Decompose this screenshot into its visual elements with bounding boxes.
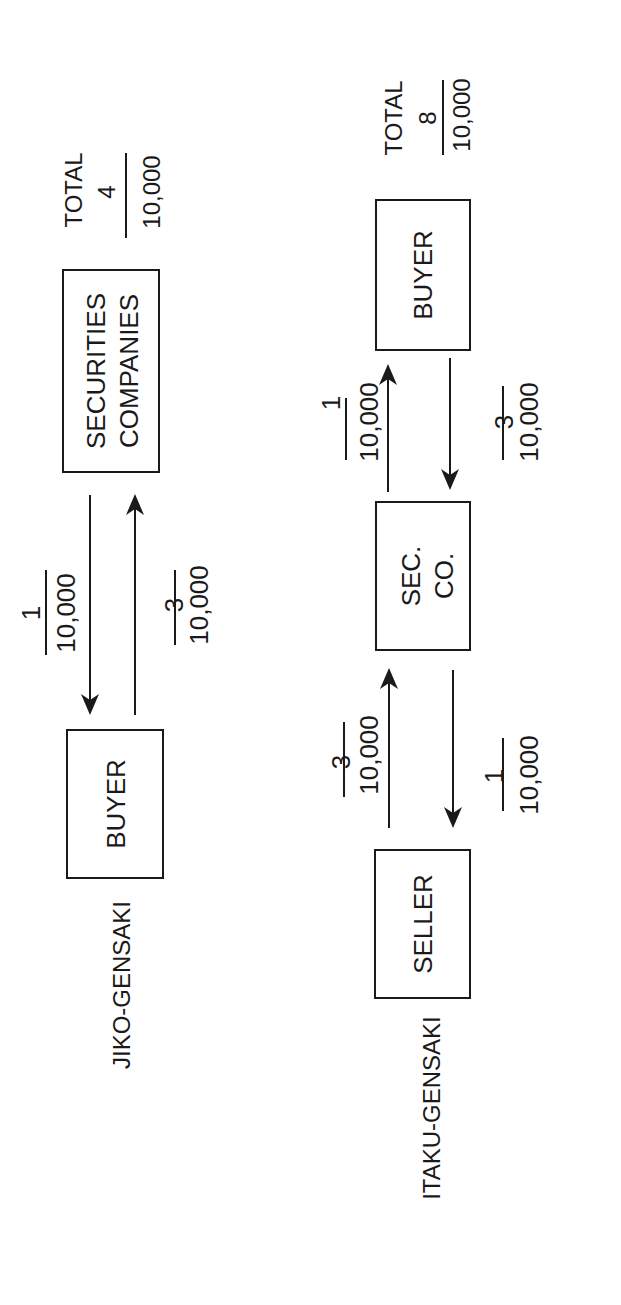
fraction-numerator: 1 [316, 396, 346, 410]
fraction-numerator: 1 [479, 769, 509, 783]
total-label: TOTAL [60, 152, 87, 227]
jiko-securities-node: SECURITIES COMPANIES [63, 270, 159, 472]
itaku-buyer-node: BUYER [376, 200, 470, 350]
itaku-seller-node: SELLER [375, 850, 470, 998]
jiko-flow-to-buyer-arrow [81, 495, 99, 715]
jiko-total: TOTAL 4 10,000 [60, 152, 165, 238]
itaku-secco-node: SEC. CO. [376, 502, 470, 650]
itaku-secco-label-line2: CO. [429, 553, 459, 599]
itaku-secco-label-line1: SEC. [396, 546, 426, 607]
itaku-flow-secco-to-seller-rate: 1 10,000 [479, 735, 544, 815]
jiko-buyer-label: BUYER [101, 759, 131, 849]
itaku-flow-buyer-to-secco-rate: 3 10,000 [489, 382, 544, 462]
itaku-flow-secco-to-seller-arrow [444, 670, 462, 828]
itaku-total: TOTAL 8 10,000 [380, 78, 475, 155]
fraction-denominator: 10,000 [514, 735, 544, 815]
jiko-flow-to-securities-rate: 3 10,000 [159, 565, 214, 645]
jiko-buyer-node: BUYER [67, 730, 163, 878]
jiko-gensaki-label: JIKO-GENSAKI [108, 901, 135, 1069]
itaku-flow-seller-to-secco-rate: 3 10,000 [326, 715, 384, 797]
jiko-securities-label-line2: COMPANIES [114, 294, 144, 448]
fraction-numerator: 3 [326, 755, 356, 769]
fraction-denominator: 10,000 [51, 573, 81, 653]
jiko-gensaki-diagram: JIKO-GENSAKI BUYER SECURITIES COMPANIES … [16, 152, 214, 1069]
fraction-denominator: 10,000 [184, 565, 214, 645]
jiko-flow-to-buyer-rate: 1 10,000 [16, 570, 81, 655]
itaku-flow-secco-to-buyer-rate: 1 10,000 [316, 382, 384, 462]
total-numerator: 4 [93, 185, 120, 198]
total-numerator: 8 [414, 111, 441, 124]
itaku-seller-label: SELLER [408, 874, 438, 974]
gensaki-diagram: JIKO-GENSAKI BUYER SECURITIES COMPANIES … [0, 0, 621, 1305]
itaku-flow-buyer-to-secco-arrow [441, 358, 459, 490]
total-label: TOTAL [380, 80, 407, 155]
itaku-buyer-label: BUYER [408, 230, 438, 320]
total-denominator: 10,000 [448, 78, 475, 151]
itaku-gensaki-label: ITAKU-GENSAKI [418, 1016, 445, 1200]
fraction-denominator: 10,000 [354, 715, 384, 795]
fraction-numerator: 1 [16, 606, 46, 620]
jiko-securities-label-line1: SECURITIES [81, 293, 111, 449]
jiko-flow-to-securities-arrow [126, 494, 144, 715]
fraction-denominator: 10,000 [354, 382, 384, 462]
itaku-gensaki-diagram: ITAKU-GENSAKI SELLER SEC. CO. BUYER 3 10… [316, 78, 544, 1200]
total-denominator: 10,000 [138, 155, 165, 228]
fraction-denominator: 10,000 [514, 382, 544, 462]
